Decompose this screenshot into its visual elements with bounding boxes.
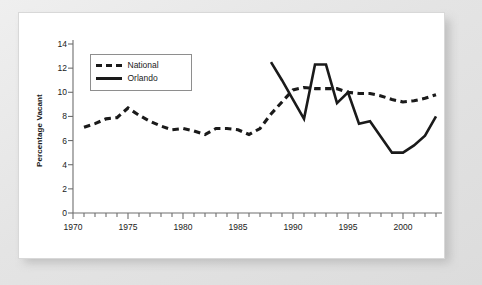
y-tick-label: 0 [43,208,67,218]
y-tick-label: 10 [43,87,67,97]
screenshot-root: Percentage Vacant 14121086420 1970197519… [0,0,482,285]
y-tick-label: 14 [43,39,67,49]
legend-label-orlando: Orlando [128,74,158,83]
x-tick-label: 1995 [335,222,361,232]
x-tick-label: 1970 [60,222,86,232]
y-tick-label: 6 [43,136,67,146]
dashed-line-icon [96,64,122,67]
x-tick-label: 2000 [390,222,416,232]
line-chart: Percentage Vacant 14121086420 1970197519… [19,13,444,258]
solid-line-icon [96,77,122,80]
x-tick-label: 1980 [170,222,196,232]
y-tick-label: 2 [43,184,67,194]
y-tick-label: 4 [43,160,67,170]
legend-item-national: National [91,59,191,72]
x-tick-label: 1985 [225,222,251,232]
chart-card: Percentage Vacant 14121086420 1970197519… [18,12,445,259]
series-line-national [84,87,436,134]
y-axis-title: Percentage Vacant [35,94,44,167]
series-line-orlando [271,62,436,153]
chart-legend: National Orlando [90,54,192,91]
legend-label-national: National [128,61,159,70]
legend-item-orlando: Orlando [91,72,191,85]
x-tick-label: 1990 [280,222,306,232]
x-tick-label: 1975 [115,222,141,232]
y-tick-label: 12 [43,63,67,73]
y-tick-label: 8 [43,111,67,121]
